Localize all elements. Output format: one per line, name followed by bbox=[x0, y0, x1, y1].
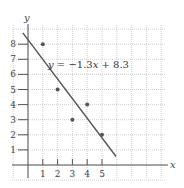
x-axis-label: x bbox=[170, 159, 176, 170]
equation-intercept: + 8.3 bbox=[98, 59, 129, 70]
y-tick-label: 7 bbox=[10, 54, 16, 64]
data-point bbox=[41, 42, 45, 46]
x-tick-label: 3 bbox=[70, 169, 76, 179]
equation-coef: = −1.3 bbox=[54, 59, 93, 70]
data-point bbox=[56, 88, 60, 92]
axes bbox=[12, 24, 168, 178]
x-tick-label: 5 bbox=[99, 169, 105, 179]
grid-lines bbox=[12, 24, 166, 180]
y-tick-label: 8 bbox=[10, 39, 16, 49]
y-axis-label: y bbox=[23, 12, 30, 23]
x-tick-label: 1 bbox=[40, 169, 46, 179]
y-tick-label: 4 bbox=[10, 100, 16, 110]
equation-label: y = −1.3x + 8.3 bbox=[47, 59, 129, 70]
data-point bbox=[100, 133, 104, 137]
y-tick-label: 3 bbox=[10, 115, 16, 125]
y-tick-label: 2 bbox=[10, 130, 16, 140]
scatter-chart: 1234512345678 x y y = −1.3x + 8.3 bbox=[0, 0, 184, 188]
y-tick-label: 5 bbox=[10, 85, 16, 95]
y-tick-label: 6 bbox=[10, 69, 16, 79]
x-tick-label: 2 bbox=[55, 169, 61, 179]
data-point bbox=[70, 118, 74, 122]
y-tick-label: 1 bbox=[10, 145, 16, 155]
x-tick-label: 4 bbox=[84, 169, 90, 179]
data-point bbox=[85, 103, 89, 107]
